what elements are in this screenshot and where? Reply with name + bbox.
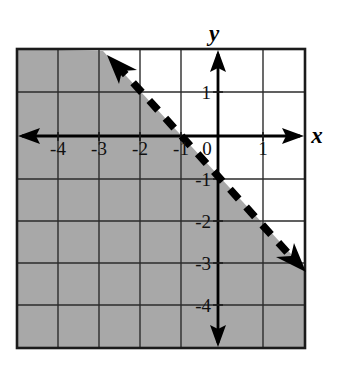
y-axis-label: y <box>206 21 220 46</box>
y-tick-label--4: -4 <box>195 295 211 316</box>
x-tick-label-1: 1 <box>258 138 268 159</box>
x-tick-label--3: -3 <box>91 138 107 159</box>
y-tick-label--1: -1 <box>195 169 211 190</box>
x-tick-label--1: -1 <box>173 138 189 159</box>
x-axis-label: x <box>310 123 323 148</box>
x-tick-label--4: -4 <box>50 138 66 159</box>
graph-canvas: -4 -3 -2 -1 0 1 1 -1 -2 -3 -4 x y <box>0 0 344 383</box>
y-tick-label--3: -3 <box>195 253 211 274</box>
x-tick-label--2: -2 <box>132 138 148 159</box>
y-tick-label--2: -2 <box>195 211 211 232</box>
x-tick-label-0: 0 <box>202 138 212 159</box>
y-tick-label-1: 1 <box>202 82 212 103</box>
coordinate-plane-figure: -4 -3 -2 -1 0 1 1 -1 -2 -3 -4 x y <box>0 0 344 383</box>
